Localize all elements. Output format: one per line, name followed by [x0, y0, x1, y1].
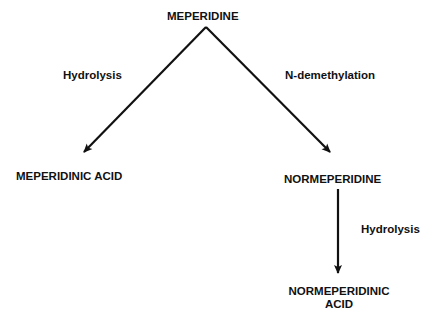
arrow-hydrolysis-left [84, 27, 206, 152]
label-n-demethylation: N-demethylation [285, 69, 375, 82]
node-normeperidinic-acid-line1: NORMEPERIDINIC [282, 285, 396, 298]
arrow-n-demethylation [206, 27, 330, 152]
node-normeperidinic-acid-line2: ACID [282, 298, 396, 311]
node-meperidine: MEPERIDINE [167, 10, 239, 23]
label-hydrolysis-left: Hydrolysis [63, 69, 122, 82]
node-normeperidine: NORMEPERIDINE [284, 173, 381, 186]
node-meperidinic-acid: MEPERIDINIC ACID [16, 170, 122, 183]
node-normeperidinic-acid: NORMEPERIDINIC ACID [282, 285, 396, 311]
label-hydrolysis-down: Hydrolysis [361, 223, 420, 236]
arrows-layer [0, 0, 439, 319]
